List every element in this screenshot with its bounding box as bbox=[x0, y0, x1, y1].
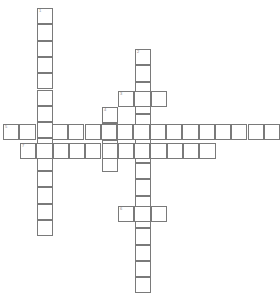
crossword-cell[interactable] bbox=[37, 106, 53, 122]
crossword-cell[interactable] bbox=[135, 245, 151, 261]
crossword-cell[interactable] bbox=[37, 90, 53, 106]
crossword-cell[interactable] bbox=[199, 124, 215, 140]
crossword-cell[interactable] bbox=[135, 65, 151, 81]
crossword-cell[interactable] bbox=[37, 187, 53, 203]
crossword-cell[interactable] bbox=[151, 206, 167, 222]
crossword-cell[interactable]: 2 bbox=[135, 49, 151, 65]
crossword-cell[interactable] bbox=[135, 163, 151, 179]
crossword-cell[interactable] bbox=[37, 220, 53, 236]
crossword-cell[interactable] bbox=[68, 124, 84, 140]
crossword-cell[interactable] bbox=[199, 143, 215, 159]
crossword-cell[interactable] bbox=[85, 143, 101, 159]
crossword-cell[interactable] bbox=[215, 124, 231, 140]
crossword-cell[interactable] bbox=[102, 143, 118, 159]
crossword-cell[interactable] bbox=[151, 91, 167, 107]
crossword-cell[interactable]: 3 bbox=[118, 91, 134, 107]
crossword-cell[interactable]: 7 bbox=[20, 143, 36, 159]
crossword-cell[interactable] bbox=[37, 73, 53, 89]
crossword-cell[interactable] bbox=[37, 122, 53, 138]
crossword-cell[interactable] bbox=[101, 124, 117, 140]
crossword-cell[interactable] bbox=[150, 143, 166, 159]
clue-number: 1 bbox=[39, 9, 41, 13]
crossword-cell[interactable] bbox=[133, 124, 149, 140]
crossword-cell[interactable] bbox=[117, 124, 133, 140]
crossword-cell[interactable] bbox=[167, 143, 183, 159]
crossword-cell[interactable] bbox=[183, 143, 199, 159]
crossword-cell[interactable] bbox=[19, 124, 35, 140]
crossword-cell[interactable]: 6 bbox=[118, 206, 134, 222]
crossword-cell[interactable] bbox=[37, 24, 53, 40]
crossword-cell[interactable] bbox=[37, 41, 53, 57]
crossword-cell[interactable] bbox=[37, 57, 53, 73]
crossword-cell[interactable] bbox=[85, 124, 101, 140]
crossword-cell[interactable] bbox=[248, 124, 264, 140]
crossword-cell[interactable]: 1 bbox=[37, 8, 53, 24]
crossword-cell[interactable] bbox=[37, 204, 53, 220]
crossword-cell[interactable] bbox=[135, 228, 151, 244]
crossword-cell[interactable] bbox=[264, 124, 280, 140]
crossword-cell[interactable] bbox=[182, 124, 198, 140]
crossword-cell[interactable]: 5 bbox=[3, 124, 19, 140]
clue-number: 3 bbox=[120, 92, 122, 96]
crossword-cell[interactable] bbox=[134, 206, 150, 222]
clue-number: 7 bbox=[22, 144, 24, 148]
crossword-cell[interactable] bbox=[231, 124, 247, 140]
crossword-cell[interactable]: 4 bbox=[102, 107, 118, 123]
crossword-cell[interactable] bbox=[135, 277, 151, 293]
crossword-cell[interactable] bbox=[135, 261, 151, 277]
crossword-cell[interactable] bbox=[134, 91, 150, 107]
crossword-cell[interactable] bbox=[166, 124, 182, 140]
clue-number: 2 bbox=[137, 50, 139, 54]
crossword-cell[interactable] bbox=[69, 143, 85, 159]
crossword-cell[interactable] bbox=[53, 143, 69, 159]
crossword-cell[interactable] bbox=[52, 124, 68, 140]
clue-number: 5 bbox=[5, 125, 7, 129]
crossword-cell[interactable] bbox=[36, 143, 52, 159]
crossword-cell[interactable] bbox=[135, 179, 151, 195]
clue-number: 4 bbox=[104, 108, 106, 112]
crossword-cell[interactable] bbox=[37, 171, 53, 187]
crossword-cell[interactable] bbox=[150, 124, 166, 140]
crossword-cell[interactable] bbox=[134, 143, 150, 159]
clue-number: 6 bbox=[120, 207, 122, 211]
crossword-cell[interactable] bbox=[118, 143, 134, 159]
